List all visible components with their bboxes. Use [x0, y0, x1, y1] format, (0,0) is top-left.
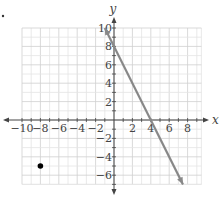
x-tick-label: −8 — [32, 122, 48, 135]
y-tick-label: −6 — [96, 169, 112, 182]
y-axis-arrow-down-icon — [112, 189, 117, 195]
y-axis-arrow-up-icon — [112, 17, 117, 23]
x-axis-label: x — [212, 113, 219, 127]
y-tick-label: −2 — [96, 132, 112, 145]
y-tick-label: −4 — [96, 151, 112, 164]
x-tick-label: −4 — [69, 122, 85, 135]
y-tick-label: 2 — [105, 96, 112, 109]
x-axis-arrow-left-icon — [3, 118, 9, 123]
x-tick-label: 6 — [166, 122, 173, 135]
x-axis-arrow-right-icon — [203, 118, 209, 123]
y-axis-label: y — [109, 2, 117, 16]
coordinate-plane: −10−8−6−4−22468108642−2−4−6xy — [0, 0, 219, 198]
y-tick-label: 6 — [105, 59, 112, 72]
plotted-line — [105, 28, 183, 184]
x-tick-label: 8 — [184, 122, 191, 135]
x-tick-label: 2 — [129, 122, 136, 135]
bullet-marker — [2, 15, 4, 17]
x-tick-label: −10 — [10, 122, 33, 135]
plotted-point — [38, 163, 44, 169]
y-tick-label: 4 — [105, 77, 112, 90]
x-tick-label: −6 — [51, 122, 67, 135]
